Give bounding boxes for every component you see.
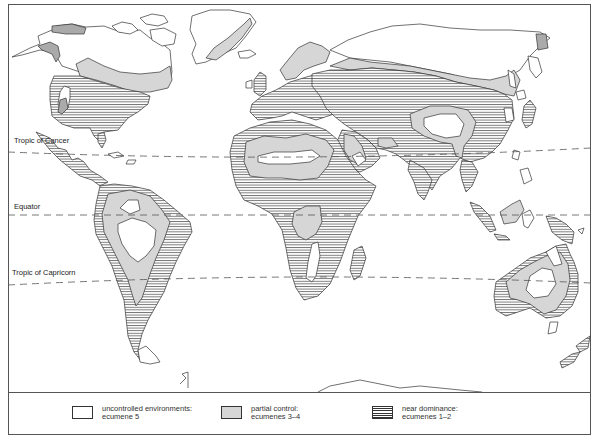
world-map [8,4,591,392]
map-legend: uncontrolled environments: ecumene 5 par… [8,392,591,435]
legend-sublabel: ecumenes 1–2 [402,413,458,421]
australia [494,244,590,368]
north-america [12,10,256,186]
tropic-of-cancer-label: Tropic of Cancer [14,136,69,145]
equator-label: Equator [14,202,40,211]
grey-swatch-icon [221,406,242,419]
legend-item-uncontrolled: uncontrolled environments: ecumene 5 [72,405,192,421]
legend-item-near-dominance: near dominance: ecumenes 1–2 [372,405,458,421]
south-america [94,184,192,364]
tropic-of-capricorn-label: Tropic of Capricorn [12,268,76,277]
hatched-swatch-icon [372,406,393,419]
white-swatch-icon [72,406,93,419]
legend-sublabel: ecumene 5 [102,413,192,421]
legend-item-partial-control: partial control: ecumenes 3–4 [221,405,300,421]
indonesia-oceania [470,200,584,244]
antarctica [180,372,482,392]
legend-sublabel: ecumenes 3–4 [251,413,300,421]
